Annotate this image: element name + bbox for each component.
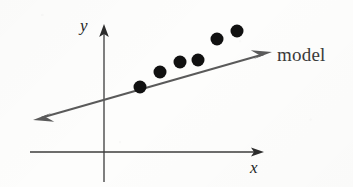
data-point [192, 54, 205, 67]
model-line-label: model [277, 45, 326, 64]
x-axis-label: x [250, 159, 258, 176]
data-point [211, 33, 224, 46]
figure-graphics [0, 0, 353, 187]
data-points [134, 25, 244, 94]
data-point [174, 56, 187, 69]
y-axis-label: y [80, 17, 88, 34]
data-point [231, 25, 244, 38]
model-line [42, 55, 263, 118]
x-axis [30, 148, 264, 157]
y-axis [99, 24, 109, 182]
data-point [154, 66, 167, 79]
data-point [134, 81, 147, 94]
model-line-group [33, 50, 272, 121]
figure-canvas: y x model [0, 0, 353, 187]
